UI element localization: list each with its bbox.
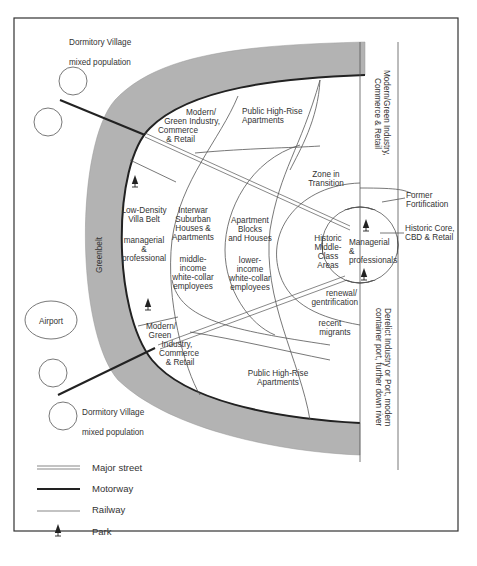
dormitory-village-bottom-label: Dormitory Village — [82, 408, 145, 417]
svg-text:Low-Density: Low-Density — [121, 206, 167, 215]
svg-text:Historic Core,: Historic Core, — [405, 224, 455, 233]
svg-text:managerial: managerial — [124, 236, 165, 245]
svg-text:Public High-Rise: Public High-Rise — [242, 107, 303, 116]
svg-text:employees: employees — [173, 282, 213, 291]
svg-text:Modern/Green Industry,: Modern/Green Industry, — [382, 70, 391, 156]
svg-text:renewal/: renewal/ — [326, 289, 358, 298]
svg-text:&: & — [141, 245, 147, 254]
strip-bottom-label: Derelict Industry or Port, modern contai… — [374, 308, 392, 427]
svg-text:Commerce: Commerce — [158, 126, 198, 135]
svg-text:container port, further down r: container port, further down river — [374, 308, 383, 427]
svg-text:white-collar: white-collar — [228, 274, 271, 283]
svg-text:employees: employees — [230, 283, 270, 292]
svg-text:Apartments: Apartments — [172, 233, 214, 242]
historic-core-label: Historic Core, CBD & Retail — [405, 224, 455, 242]
svg-text:&: & — [349, 247, 355, 256]
dormitory-village-top-label: Dormitory Village — [69, 38, 132, 47]
svg-text:income: income — [180, 264, 207, 273]
urban-model-diagram: Dormitory Village mixed population Airpo… — [0, 0, 477, 566]
svg-text:Park: Park — [92, 526, 112, 537]
svg-text:Major street: Major street — [92, 462, 143, 473]
svg-text:gentrification: gentrification — [312, 298, 359, 307]
svg-text:Modern/: Modern/ — [146, 322, 177, 331]
mixed-population-bottom-label: mixed population — [82, 428, 144, 437]
airport-label: Airport — [39, 317, 64, 326]
svg-text:Commerce & Retail: Commerce & Retail — [373, 78, 382, 149]
svg-text:income: income — [237, 265, 264, 274]
svg-text:Managerial: Managerial — [349, 238, 390, 247]
svg-text:Transition: Transition — [308, 179, 344, 188]
svg-text:Interwar: Interwar — [178, 206, 208, 215]
svg-text:Blocks: Blocks — [238, 225, 262, 234]
svg-text:Motorway: Motorway — [92, 483, 133, 494]
svg-text:Middle-: Middle- — [315, 243, 342, 252]
svg-text:middle-: middle- — [180, 255, 207, 264]
greenbelt-label: Greenbelt — [95, 236, 104, 273]
svg-text:Industry,: Industry, — [162, 340, 193, 349]
svg-text:lower-: lower- — [239, 256, 262, 265]
svg-text:Historic: Historic — [314, 234, 341, 243]
svg-text:Apartments: Apartments — [242, 116, 284, 125]
svg-text:Villa Belt: Villa Belt — [128, 215, 160, 224]
svg-text:Public High-Rise: Public High-Rise — [248, 369, 309, 378]
svg-text:Class: Class — [318, 252, 338, 261]
svg-text:Houses &: Houses & — [175, 224, 211, 233]
svg-text:Former: Former — [406, 191, 433, 200]
svg-text:white-collar: white-collar — [171, 273, 214, 282]
historic-middle-class-label: Historic Middle- Class Areas — [314, 234, 341, 270]
svg-text:professionals: professionals — [349, 256, 397, 265]
svg-text:recent: recent — [319, 319, 342, 328]
svg-text:Suburban: Suburban — [175, 215, 211, 224]
svg-text:Derelict Industry or Port, mod: Derelict Industry or Port, modern — [383, 308, 392, 427]
svg-text:Green: Green — [149, 331, 172, 340]
svg-text:& Retail: & Retail — [166, 358, 195, 367]
strip-top-label: Modern/Green Industry, Commerce & Retail — [373, 70, 391, 156]
svg-text:Zone in: Zone in — [312, 170, 340, 179]
svg-text:Areas: Areas — [317, 261, 338, 270]
mixed-population-top-label: mixed population — [69, 58, 131, 67]
svg-text:Apartment: Apartment — [231, 216, 269, 225]
svg-text:Modern/: Modern/ — [186, 108, 217, 117]
zone-in-transition-label: Zone in Transition — [308, 170, 344, 188]
svg-text:Green Industry,: Green Industry, — [164, 117, 220, 126]
svg-text:Fortification: Fortification — [406, 200, 449, 209]
svg-text:& Retail: & Retail — [166, 135, 195, 144]
svg-text:CBD & Retail: CBD & Retail — [405, 233, 453, 242]
svg-text:Railway: Railway — [92, 504, 126, 515]
svg-text:and Houses: and Houses — [228, 234, 272, 243]
svg-text:Apartments: Apartments — [257, 378, 299, 387]
svg-text:migrants: migrants — [319, 328, 350, 337]
svg-text:professional: professional — [122, 254, 166, 263]
svg-text:Commerce: Commerce — [159, 349, 199, 358]
